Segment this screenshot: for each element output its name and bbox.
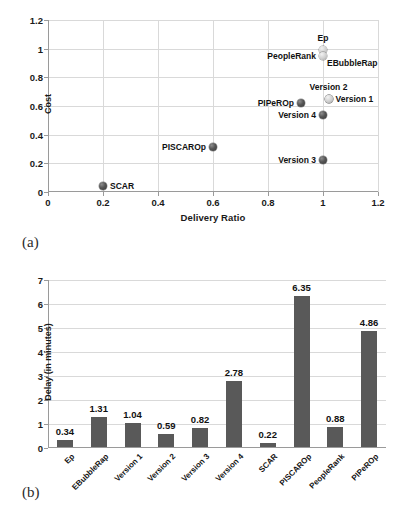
figure-panel-a: 00.20.40.60.811.2 00.20.40.60.811.2 EpPe… bbox=[0, 0, 404, 264]
bar-category-label: Ep bbox=[63, 452, 77, 466]
bar-value-label: 0.82 bbox=[191, 414, 210, 425]
bar bbox=[125, 423, 141, 448]
x-tick-label: 0 bbox=[45, 197, 50, 208]
scatter-point-label: Version 4 bbox=[278, 110, 316, 120]
bar bbox=[192, 428, 208, 448]
scatter-point bbox=[319, 156, 327, 164]
scatter-point-label: PIPeROp bbox=[258, 98, 294, 108]
bar-plot-area: 01234567 0.34Ep1.31EBubbleRap1.04Version… bbox=[48, 280, 386, 448]
gridline-horizontal bbox=[48, 328, 386, 329]
scatter-point-label: PeopleRank bbox=[267, 51, 316, 61]
gridline-horizontal bbox=[48, 352, 386, 353]
scatter-plot-area: 00.20.40.60.811.2 00.20.40.60.811.2 EpPe… bbox=[48, 20, 378, 192]
y-tickmark bbox=[44, 448, 48, 449]
y-tick-label: 0.2 bbox=[30, 158, 43, 169]
x-tickmark bbox=[48, 192, 49, 196]
scatter-point bbox=[319, 111, 327, 119]
x-tickmark bbox=[268, 192, 269, 196]
y-tick-label: 0.8 bbox=[30, 72, 43, 83]
bar-category-label: Version 1 bbox=[112, 452, 144, 484]
scatter-point bbox=[325, 95, 333, 103]
bar bbox=[158, 434, 174, 448]
bar bbox=[294, 296, 310, 448]
bar-value-label: 0.34 bbox=[56, 426, 75, 437]
bar-value-label: 0.22 bbox=[258, 429, 277, 440]
x-tickmark bbox=[378, 192, 379, 196]
bar-category-label: PIPeROp bbox=[350, 452, 381, 483]
bar-value-label: 4.86 bbox=[360, 317, 379, 328]
bar-category-label: Version 2 bbox=[146, 452, 178, 484]
gridline-horizontal bbox=[48, 280, 386, 281]
bar-value-label: 1.04 bbox=[123, 409, 142, 420]
gridline-vertical bbox=[213, 20, 214, 192]
x-tickmark bbox=[323, 192, 324, 196]
scatter-point-label: Version 2 bbox=[310, 82, 348, 92]
scatter-x-axis-title: Delivery Ratio bbox=[48, 212, 378, 223]
bar-category-label: Version 4 bbox=[214, 452, 246, 484]
x-tick-label: 1 bbox=[320, 197, 325, 208]
y-tick-label: 0.6 bbox=[30, 101, 43, 112]
scatter-point-label: SCAR bbox=[110, 181, 134, 191]
bar-category-label: SCAR bbox=[257, 452, 279, 474]
y-tick-label: 0 bbox=[38, 443, 43, 454]
scatter-point-label: EBubbleRap bbox=[327, 58, 378, 68]
x-tickmark bbox=[213, 192, 214, 196]
bar-x-axis bbox=[48, 447, 386, 448]
bar bbox=[226, 381, 242, 448]
panel-label-a: (a) bbox=[22, 234, 39, 251]
scatter-point bbox=[297, 99, 305, 107]
x-tick-label: 1.2 bbox=[371, 197, 384, 208]
bar bbox=[361, 331, 377, 448]
y-tick-label: 7 bbox=[38, 275, 43, 286]
bar-value-label: 1.31 bbox=[89, 403, 108, 414]
bar-value-label: 0.59 bbox=[157, 420, 176, 431]
scatter-y-axis-title: Cost bbox=[43, 62, 53, 146]
scatter-point-label: Version 3 bbox=[278, 155, 316, 165]
gridline-vertical bbox=[103, 20, 104, 192]
gridline-vertical bbox=[158, 20, 159, 192]
y-tick-label: 0 bbox=[38, 187, 43, 198]
scatter-point bbox=[99, 182, 107, 190]
scatter-point bbox=[319, 52, 327, 60]
bar-value-label: 0.88 bbox=[326, 413, 345, 424]
scatter-x-axis bbox=[48, 191, 378, 192]
figure-panel-b: 01234567 0.34Ep1.31EBubbleRap1.04Version… bbox=[0, 264, 404, 528]
bar-value-label: 6.35 bbox=[292, 282, 311, 293]
bar-y-axis-title: Delay (in minutes) bbox=[43, 302, 53, 422]
gridline-vertical bbox=[378, 20, 379, 192]
bar bbox=[327, 427, 343, 448]
x-tickmark bbox=[158, 192, 159, 196]
y-tick-label: 1.2 bbox=[30, 15, 43, 26]
panel-label-b: (b) bbox=[22, 484, 40, 501]
x-tickmark bbox=[103, 192, 104, 196]
bar-category-label: Version 3 bbox=[180, 452, 212, 484]
gridline-horizontal bbox=[48, 400, 386, 401]
bar-value-label: 2.78 bbox=[225, 367, 244, 378]
bar bbox=[91, 417, 107, 448]
scatter-point-label: PISCAROp bbox=[162, 142, 206, 152]
scatter-point-label: Version 1 bbox=[336, 94, 374, 104]
x-tick-label: 0.2 bbox=[96, 197, 109, 208]
y-tick-label: 1 bbox=[38, 43, 43, 54]
scatter-point-label: Ep bbox=[318, 33, 329, 43]
scatter-point bbox=[209, 143, 217, 151]
x-tick-label: 0.8 bbox=[261, 197, 274, 208]
y-tick-label: 0.4 bbox=[30, 129, 43, 140]
x-tick-label: 0.4 bbox=[151, 197, 164, 208]
bar-category-label: PISCAROp bbox=[277, 452, 313, 488]
x-tick-label: 0.6 bbox=[206, 197, 219, 208]
gridline-horizontal bbox=[48, 304, 386, 305]
gridline-horizontal bbox=[48, 376, 386, 377]
